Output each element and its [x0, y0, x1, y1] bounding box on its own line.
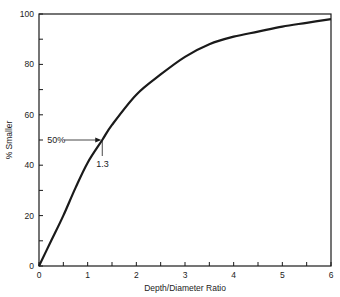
- x-tick-label: 6: [329, 270, 334, 280]
- data-curve: [39, 19, 331, 266]
- y-tick-label: 100: [20, 9, 34, 19]
- axis-ticks: 0123456020406080100: [20, 9, 334, 280]
- annotation-50-percent: 50%: [47, 135, 65, 145]
- annotations: 50% 1.3: [47, 135, 109, 169]
- y-tick-label: 80: [25, 59, 35, 69]
- annotation-1-3: 1.3: [96, 159, 109, 169]
- x-tick-label: 1: [85, 270, 90, 280]
- x-tick-label: 4: [231, 270, 236, 280]
- y-axis-label: % Smaller: [4, 120, 14, 159]
- y-tick-label: 20: [25, 211, 35, 221]
- x-tick-label: 2: [134, 270, 139, 280]
- y-tick-label: 40: [25, 160, 35, 170]
- x-tick-label: 0: [37, 270, 42, 280]
- line-chart: 0123456020406080100 50% 1.3 Depth/Diamet…: [0, 0, 340, 297]
- y-tick-label: 60: [25, 110, 35, 120]
- x-axis-label: Depth/Diameter Ratio: [144, 283, 226, 293]
- x-tick-label: 3: [183, 270, 188, 280]
- y-tick-label: 0: [29, 261, 34, 271]
- x-tick-label: 5: [280, 270, 285, 280]
